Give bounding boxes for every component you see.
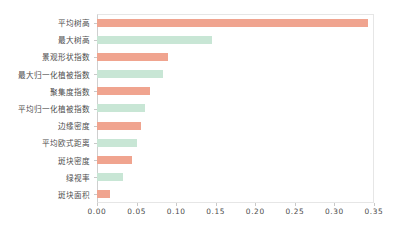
bars-container <box>97 14 374 203</box>
bar-chart-figure: 平均树高最大树高景观形状指数最大归一化植被指数聚集度指数平均归一化植被指数边缘密… <box>0 0 395 230</box>
y-axis-tick-mark <box>94 160 97 161</box>
category-label-text: 平均树高 <box>58 17 90 28</box>
x-axis-tick-label: 0.05 <box>127 207 146 216</box>
category-label-text: 最大归一化植被指数 <box>18 69 90 80</box>
y-axis-tick-label: 最大树高 <box>58 31 90 48</box>
y-axis-tick-mark <box>94 194 97 195</box>
category-label-text: 平均归一化植被指数 <box>18 103 90 114</box>
y-axis-tick-mark <box>94 109 97 110</box>
y-axis-tick-label: 景观形状指数 <box>42 48 90 65</box>
bar <box>97 104 145 112</box>
y-axis-tick-label: 斑块密度 <box>58 151 90 168</box>
y-axis-tick-label: 最大归一化植被指数 <box>18 66 90 83</box>
x-axis-tick-label: 0.30 <box>325 207 344 216</box>
y-axis-tick-label: 绿视率 <box>66 169 90 186</box>
y-axis-tick-label: 平均树高 <box>58 14 90 31</box>
x-axis-tick-mark <box>295 203 296 206</box>
x-axis-tick-label: 0.25 <box>285 207 304 216</box>
bar-row <box>97 117 374 134</box>
bar <box>97 36 212 44</box>
x-axis-tick-label: 0.10 <box>167 207 186 216</box>
bar-row <box>97 151 374 168</box>
category-label-text: 边缘密度 <box>58 120 90 131</box>
category-label-text: 景观形状指数 <box>42 51 90 62</box>
bar <box>97 70 163 78</box>
y-axis-tick-mark <box>94 126 97 127</box>
category-label-text: 聚集度指数 <box>50 86 90 97</box>
bar <box>97 139 137 147</box>
category-label-text: 绿视率 <box>66 172 90 183</box>
bar <box>97 19 368 27</box>
x-axis-tick-mark <box>374 203 375 206</box>
category-label-text: 平均欧式距离 <box>42 137 90 148</box>
bar <box>97 53 168 61</box>
y-axis-tick-label: 边缘密度 <box>58 117 90 134</box>
y-axis-category-labels: 平均树高最大树高景观形状指数最大归一化植被指数聚集度指数平均归一化植被指数边缘密… <box>0 14 94 203</box>
y-axis-tick-mark <box>94 57 97 58</box>
bar-row <box>97 14 374 31</box>
bar-row <box>97 48 374 65</box>
y-axis-tick-mark <box>94 40 97 41</box>
x-axis-tick-mark <box>137 203 138 206</box>
y-axis-tick-label: 聚集度指数 <box>50 83 90 100</box>
bar-row <box>97 169 374 186</box>
bar-row <box>97 31 374 48</box>
y-axis-tick-mark <box>94 23 97 24</box>
x-axis-tick-label: 0.20 <box>246 207 265 216</box>
x-axis-tick-mark <box>255 203 256 206</box>
y-axis-tick-mark <box>94 91 97 92</box>
bar <box>97 173 123 181</box>
x-axis-tick-mark <box>216 203 217 206</box>
x-axis-tick-mark <box>97 203 98 206</box>
bar-row <box>97 186 374 203</box>
x-axis-tick-label: 0.35 <box>365 207 384 216</box>
y-axis-tick-mark <box>94 177 97 178</box>
category-label-text: 最大树高 <box>58 34 90 45</box>
bar <box>97 87 150 95</box>
bar-row <box>97 100 374 117</box>
y-axis-tick-label: 平均欧式距离 <box>42 134 90 151</box>
x-axis-tick-label: 0.15 <box>206 207 225 216</box>
x-axis: 0.000.050.100.150.200.250.300.35 <box>97 203 374 227</box>
y-axis-tick-mark <box>94 74 97 75</box>
x-axis-tick-mark <box>334 203 335 206</box>
y-axis-tick-label: 斑块面积 <box>58 186 90 203</box>
x-axis-tick-mark <box>176 203 177 206</box>
y-axis-tick-label: 平均归一化植被指数 <box>18 100 90 117</box>
category-label-text: 斑块密度 <box>58 155 90 166</box>
bar-row <box>97 83 374 100</box>
bar <box>97 190 110 198</box>
y-axis-tick-mark <box>94 143 97 144</box>
category-label-text: 斑块面积 <box>58 189 90 200</box>
x-axis-tick-label: 0.00 <box>88 207 107 216</box>
bar-row <box>97 134 374 151</box>
bar <box>97 122 141 130</box>
bar-row <box>97 66 374 83</box>
bar <box>97 156 132 164</box>
